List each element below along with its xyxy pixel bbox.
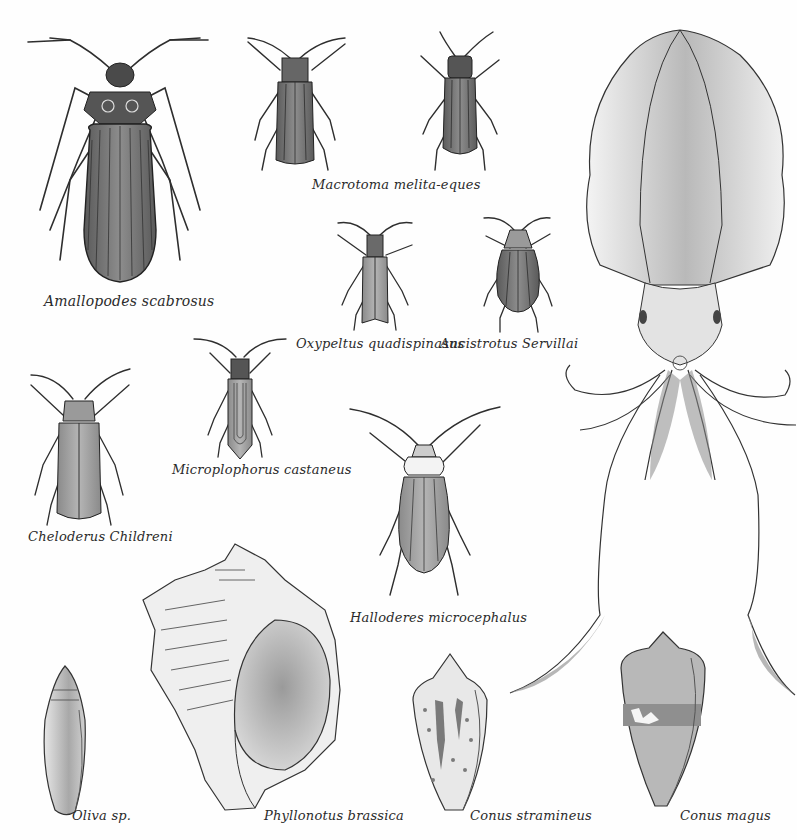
shell-illustration-icon [615, 628, 710, 813]
specimen-macrotoma-melita-eques-1 [240, 30, 350, 170]
specimen-conus-stramineus [405, 650, 495, 815]
beetle-illustration-icon [415, 30, 505, 170]
caption-conus-magus: Conus magus [680, 808, 771, 823]
caption-amallopodes-scabrosus: Amallopodes scabrosus [44, 293, 214, 309]
caption-conus-stramineus: Conus stramineus [470, 808, 592, 823]
caption-microplophorus-castaneus: Microplophorus castaneus [172, 462, 352, 477]
specimen-oxypeltus-quadispinasus [330, 215, 420, 330]
illustration-plate: Amallopodes scabrosus [0, 0, 797, 840]
specimen-conus-magus [615, 628, 710, 813]
specimen-microplophorus-castaneus [190, 335, 290, 460]
specimen-halloderes-microcephalus [340, 395, 510, 595]
specimen-amallopodes-scabrosus [20, 30, 220, 290]
beetle-illustration-icon [240, 30, 350, 170]
specimen-macrotoma-melita-eques-2 [415, 30, 505, 170]
shell-illustration-icon [405, 650, 495, 815]
beetle-illustration-icon [330, 215, 420, 330]
specimen-oliva-sp [35, 660, 95, 820]
beetle-illustration-icon [190, 335, 290, 460]
shell-illustration-icon [35, 660, 95, 820]
specimen-cheloderus-childreni [25, 365, 135, 525]
squid-illustration-icon [500, 25, 797, 705]
caption-oliva-sp: Oliva sp. [72, 808, 131, 823]
beetle-illustration-icon [340, 395, 510, 595]
specimen-phyllonotus-brassica [135, 540, 345, 820]
specimen-squid [500, 25, 797, 705]
beetle-illustration-icon [20, 30, 220, 290]
caption-macrotoma-melita-eques: Macrotoma melita-eques [312, 177, 481, 192]
shell-illustration-icon [135, 540, 345, 820]
caption-phyllonotus-brassica: Phyllonotus brassica [264, 808, 404, 823]
beetle-illustration-icon [25, 365, 135, 525]
